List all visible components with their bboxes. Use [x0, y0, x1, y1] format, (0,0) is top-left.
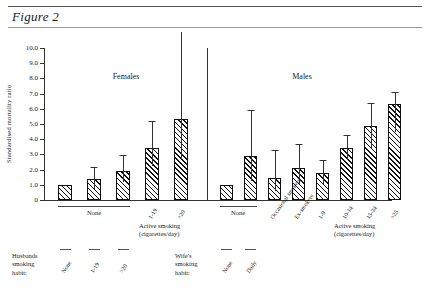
y-tick-label: 10.0 [26, 45, 38, 52]
y-tick [40, 139, 44, 140]
x-axis [44, 200, 392, 201]
habit-tick-female-2 [118, 249, 129, 250]
y-tick-label: 1.0 [29, 181, 38, 188]
habit-tick-male-0 [221, 249, 232, 250]
figure-container: Figure 2 Standardised mortality ratio 01… [0, 0, 430, 290]
error-bar-cap [247, 110, 254, 111]
y-tick [40, 48, 44, 49]
habit-label-female-2: >20 [118, 263, 128, 274]
chart-plot-area: Standardised mortality ratio 01.02.03.04… [44, 48, 392, 200]
error-bar [94, 167, 95, 188]
bracket-label-females-none: None [87, 209, 101, 216]
y-tick [40, 124, 44, 125]
y-tick [40, 200, 44, 201]
x-tick-label-female-dose-1: >20 [176, 209, 186, 220]
y-tick-label: 5.0 [29, 121, 38, 128]
x-tick-label-male-2: 1-9 [317, 210, 327, 220]
bracket-label-males-none: None [231, 209, 245, 216]
habit-label-female-0: None [60, 260, 72, 274]
error-bar [347, 135, 348, 160]
error-bar-cap [149, 121, 156, 122]
panel-title-males: Males [292, 72, 312, 81]
wife-habit-row-label: Wife's smoking habit: [175, 252, 197, 277]
habit-tick-male-1 [245, 249, 256, 250]
error-bar-cap [91, 167, 98, 168]
panel-divider [207, 48, 208, 200]
error-bar [275, 150, 276, 191]
habit-label-male-0: None [221, 260, 233, 274]
y-tick [40, 170, 44, 171]
bar [58, 185, 72, 200]
habit-tick-female-1 [89, 249, 100, 250]
y-tick-label: 7.0 [29, 90, 38, 97]
y-tick [40, 94, 44, 95]
x-tick-label-female-dose-0: 1-19 [147, 208, 158, 220]
habit-label-male-1: Daily [245, 260, 258, 274]
y-tick-label: 2.0 [29, 166, 38, 173]
y-axis [44, 48, 45, 200]
panel-title-females: Females [113, 72, 140, 81]
y-tick-label: 6.0 [29, 105, 38, 112]
y-tick [40, 63, 44, 64]
y-axis-label: Standardised mortality ratio [5, 85, 12, 163]
y-tick [40, 78, 44, 79]
y-tick [40, 185, 44, 186]
y-tick [40, 109, 44, 110]
page-title: Figure 2 [12, 9, 59, 25]
error-bar-cap [319, 160, 326, 161]
habit-label-female-1: 1-19 [89, 262, 100, 274]
error-bar [123, 155, 124, 182]
error-bar-cap [295, 144, 302, 145]
error-bar-cap [391, 92, 398, 93]
error-bar [152, 121, 153, 166]
y-tick-label: 8.0 [29, 75, 38, 82]
error-bar [323, 160, 324, 184]
bracket-males-none [220, 206, 257, 207]
bar [220, 185, 233, 200]
error-bar [395, 92, 396, 132]
header-rule-bottom [8, 27, 422, 28]
habit-tick-female-0 [60, 249, 71, 250]
dose-caption-males: Active smoking (cigarettes/day) [334, 222, 375, 238]
y-tick-label: 9.0 [29, 60, 38, 67]
x-tick-label-male-5: >25 [389, 209, 399, 220]
error-bar-cap [120, 155, 127, 156]
bracket-females-none [58, 206, 130, 207]
dose-caption-females: Active smoking (cigarettes/day) [139, 222, 180, 238]
x-tick-label-male-4: 15-24 [365, 205, 378, 220]
header-rule-top [8, 6, 422, 7]
error-bar [371, 103, 372, 148]
x-tick-label-male-3: 10-14 [341, 205, 354, 220]
y-tick-label: 0 [35, 197, 39, 204]
error-bar-cap [367, 103, 374, 104]
y-tick-label: 3.0 [29, 151, 38, 158]
error-bar [181, 32, 182, 159]
error-bar-cap [343, 135, 350, 136]
y-tick [40, 154, 44, 155]
husbands-habit-row-label: Husbands smoking habit: [12, 252, 38, 277]
error-bar-cap [271, 150, 278, 151]
y-tick-label: 4.0 [29, 136, 38, 143]
error-bar [251, 110, 252, 181]
